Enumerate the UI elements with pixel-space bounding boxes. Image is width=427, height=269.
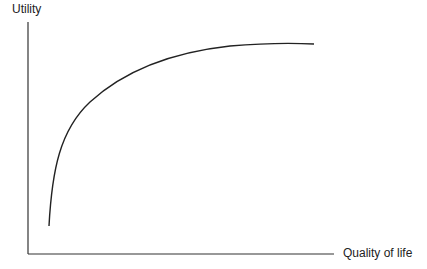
y-axis-label: Utility xyxy=(12,2,41,16)
x-axis-label: Quality of life xyxy=(343,246,412,260)
utility-curve xyxy=(49,43,314,226)
chart-canvas xyxy=(0,0,427,269)
